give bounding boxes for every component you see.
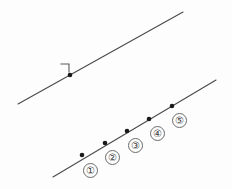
point-5-label: ⑤ xyxy=(172,113,187,128)
point-3 xyxy=(125,129,130,134)
point-1 xyxy=(80,153,85,158)
upper-line xyxy=(18,12,183,104)
right-angle-mark xyxy=(61,64,69,72)
point-4 xyxy=(147,117,152,122)
point-3-label: ③ xyxy=(128,138,143,153)
lower-line xyxy=(53,80,216,177)
diagram-figure: ①②③④⑤ xyxy=(0,0,232,189)
point-4-label: ④ xyxy=(150,126,165,141)
point-1-label: ① xyxy=(83,163,98,178)
upper-line-point xyxy=(68,73,73,78)
point-2 xyxy=(103,141,108,146)
point-2-label: ② xyxy=(105,150,120,165)
point-5 xyxy=(170,104,175,109)
